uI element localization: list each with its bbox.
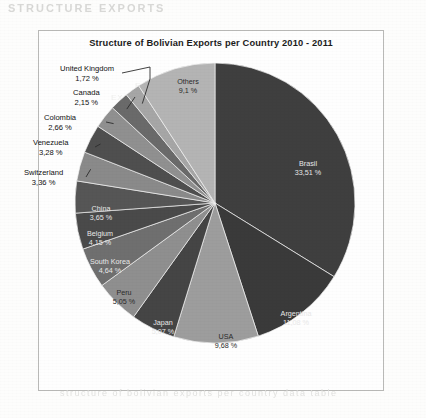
pie-slice-label-name: Switzerland	[24, 168, 63, 177]
pie-slice-label-value: 2,66 %	[44, 123, 76, 133]
pie-slice-label-name: Canada	[73, 88, 100, 97]
pie-slice-label-value: 4,15 %	[60, 238, 140, 247]
pie-slice-label-name: United Kingdom	[60, 64, 114, 73]
pie-slice-label-value: 3,28 %	[33, 148, 68, 158]
pie-slice-label-name: Japan	[153, 318, 173, 327]
pie-slice-label-name: Colombia	[44, 113, 76, 122]
pie-slice-label-name: China	[92, 204, 111, 213]
pie-slice-label-value: 2,15 %	[73, 98, 100, 108]
pie-slice-label-value: 4,64 %	[70, 266, 150, 275]
pie-slice-label-value: 33,51 %	[268, 168, 348, 177]
pie-slice-label: Switzerland3,36 %	[24, 168, 63, 187]
chart-title: Structure of Bolivian Exports per Countr…	[39, 38, 383, 48]
pie-slice-label: Others9,1 %	[148, 77, 228, 96]
pie-slice-label-value: 5,07 %	[123, 327, 203, 336]
pie-slice-label-name: Others	[177, 77, 199, 86]
pie-slice-label-name: USA	[219, 332, 234, 341]
pie-slice-label-name: Argentina	[281, 309, 312, 318]
pie-slice-label: Canada2,15 %	[73, 88, 100, 107]
ghost-text-top: STRUCTURE EXPORTS	[8, 2, 165, 14]
scanned-page-background: STRUCTURE EXPORTS Structure of Bolivian …	[0, 0, 426, 418]
pie-slice-label: Japan5,07 %	[123, 318, 203, 337]
pie-slice-label-value: 5,05 %	[84, 297, 164, 306]
ghost-text-bottom: structure of bolivian exports per countr…	[60, 388, 338, 398]
pie-slice-label: Peru5,05 %	[84, 288, 164, 307]
pie-slice-label: United Kingdom1,72 %	[60, 64, 114, 83]
pie-slice-label-name: Belgium	[87, 229, 113, 238]
pie-slice-label-value: 3,36 %	[24, 178, 63, 188]
pie-slice-label: Venezuela3,28 %	[33, 138, 68, 157]
pie-slice-label-value: 1,72 %	[60, 74, 114, 84]
pie-slice-label-value: 3,65 %	[61, 213, 141, 222]
pie-slice-label: Brasil33,51 %	[268, 159, 348, 178]
pie-slice-label-value: 9,1 %	[148, 86, 228, 95]
pie-slice-label: South Korea4,64 %	[70, 257, 150, 276]
pie-slice-label: Argentina11,08 %	[256, 309, 336, 328]
pie-slice-label: Colombia2,66 %	[44, 113, 76, 132]
pie-slice-label: China3,65 %	[61, 204, 141, 223]
pie-slice-label-name: South Korea	[90, 257, 130, 266]
pie-slice-label-name: Venezuela	[33, 138, 68, 147]
pie-slice-label-value: 11,08 %	[256, 318, 336, 327]
pie-slice-label-name: Peru	[116, 288, 131, 297]
pie-slice-label-value: 9,68 %	[186, 341, 266, 350]
pie-slice-label: Belgium4,15 %	[60, 229, 140, 248]
pie-slice-label-name: Brasil	[299, 159, 317, 168]
